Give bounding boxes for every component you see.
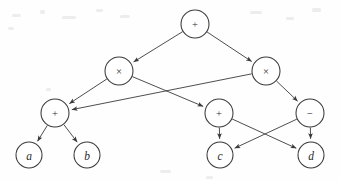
paper-speck xyxy=(312,8,321,12)
graph-edge-mulR-to-sub xyxy=(276,81,297,101)
paper-speck xyxy=(120,15,130,18)
times-sign-circle[interactable] xyxy=(105,57,133,85)
graph-edge-root-to-mulR xyxy=(207,32,252,62)
node-layer: +××++−abcd xyxy=(16,10,324,168)
plus-sign-circle[interactable] xyxy=(181,10,209,38)
graph-node-addL[interactable]: + xyxy=(41,99,69,127)
times-sign-circle[interactable] xyxy=(252,57,280,85)
graph-node-addM[interactable]: + xyxy=(205,99,233,127)
paper-speck xyxy=(250,11,262,14)
graph-node-leafB[interactable]: b xyxy=(74,142,100,168)
paper-speck xyxy=(286,17,294,20)
paper-speck-layer xyxy=(8,8,321,179)
dag-canvas: +××++−abcd xyxy=(0,0,340,180)
minus-sign-circle[interactable] xyxy=(296,99,324,127)
graph-edge-mulL-to-addL xyxy=(69,79,107,104)
variable-c-circle[interactable] xyxy=(207,142,233,168)
paper-speck xyxy=(206,176,213,179)
paper-speck xyxy=(96,9,103,12)
graph-edge-mulL-to-addM xyxy=(132,77,203,107)
graph-node-sub[interactable]: − xyxy=(296,99,324,127)
graph-edge-addL-to-leafB xyxy=(64,125,77,143)
plus-sign-circle[interactable] xyxy=(205,99,233,127)
paper-speck xyxy=(8,27,14,30)
graph-edge-root-to-mulL xyxy=(134,32,183,62)
paper-speck xyxy=(40,10,45,14)
graph-node-mulL[interactable]: × xyxy=(105,57,133,85)
expression-dag-figure: +××++−abcd xyxy=(0,0,340,180)
plus-sign-circle[interactable] xyxy=(41,99,69,127)
graph-node-leafC[interactable]: c xyxy=(207,142,233,168)
paper-speck xyxy=(46,88,51,91)
graph-node-leafD[interactable]: d xyxy=(298,142,324,168)
variable-d-circle[interactable] xyxy=(298,142,324,168)
paper-speck xyxy=(160,170,171,173)
paper-speck xyxy=(12,14,21,17)
graph-node-leafA[interactable]: a xyxy=(16,142,42,168)
graph-node-root[interactable]: + xyxy=(181,10,209,38)
graph-node-mulR[interactable]: × xyxy=(252,57,280,85)
paper-speck xyxy=(62,16,76,19)
variable-b-circle[interactable] xyxy=(74,142,100,168)
edge-layer xyxy=(38,32,311,149)
graph-edge-addL-to-leafA xyxy=(38,125,48,141)
variable-a-circle[interactable] xyxy=(16,142,42,168)
